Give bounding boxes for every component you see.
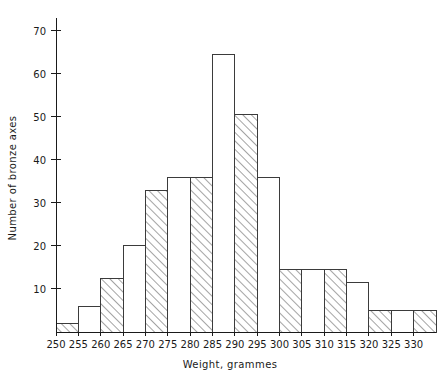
- y-tick-label: 20: [33, 241, 46, 252]
- x-tick-label: 320: [359, 339, 378, 350]
- histogram-bar: [56, 323, 78, 332]
- x-tick-label: 250: [46, 339, 65, 350]
- histogram-bar: [280, 270, 302, 332]
- histogram-bar: [78, 306, 100, 332]
- x-axis-title: Weight, grammes: [183, 359, 278, 370]
- x-tick-label: 325: [382, 339, 401, 350]
- histogram-bar: [168, 177, 190, 332]
- x-tick-label: 330: [404, 339, 423, 350]
- x-tick-label: 315: [337, 339, 356, 350]
- y-tick-label: 50: [33, 112, 46, 123]
- histogram-bar: [235, 115, 257, 332]
- x-tick-label: 255: [69, 339, 88, 350]
- x-tick-label: 270: [136, 339, 155, 350]
- histogram-chart: 2502552602652702752802852902953003053103…: [0, 0, 446, 379]
- x-axis-ticks: 2502552602652702752802852902953003053103…: [46, 332, 423, 350]
- histogram-bar: [302, 270, 324, 332]
- y-axis-ticks: 10203040506070: [33, 26, 61, 295]
- histogram-bar: [145, 190, 167, 332]
- y-tick-label: 40: [33, 155, 46, 166]
- x-tick-label: 305: [292, 339, 311, 350]
- histogram-bar: [347, 283, 369, 332]
- y-tick-label: 70: [33, 26, 46, 37]
- x-tick-label: 300: [270, 339, 289, 350]
- y-tick-label: 60: [33, 69, 46, 80]
- x-tick-label: 310: [315, 339, 334, 350]
- histogram-bar: [101, 278, 123, 332]
- histogram-bar: [391, 310, 413, 332]
- histogram-bar: [190, 177, 212, 332]
- bars-group: [56, 55, 436, 332]
- histogram-bar: [414, 310, 436, 332]
- histogram-bar: [369, 310, 391, 332]
- x-tick-label: 290: [225, 339, 244, 350]
- x-tick-label: 280: [181, 339, 200, 350]
- x-tick-label: 275: [158, 339, 177, 350]
- histogram-bar: [212, 55, 234, 332]
- chart-canvas: 2502552602652702752802852902953003053103…: [0, 0, 446, 379]
- histogram-bar: [123, 246, 145, 332]
- x-tick-label: 260: [91, 339, 110, 350]
- histogram-bar: [324, 270, 346, 332]
- y-tick-label: 30: [33, 198, 46, 209]
- histogram-bar: [257, 177, 279, 332]
- y-tick-label: 10: [33, 284, 46, 295]
- x-tick-label: 285: [203, 339, 222, 350]
- x-tick-label: 265: [114, 339, 133, 350]
- x-tick-label: 295: [248, 339, 267, 350]
- y-axis-title: Number of bronze axes: [7, 116, 18, 241]
